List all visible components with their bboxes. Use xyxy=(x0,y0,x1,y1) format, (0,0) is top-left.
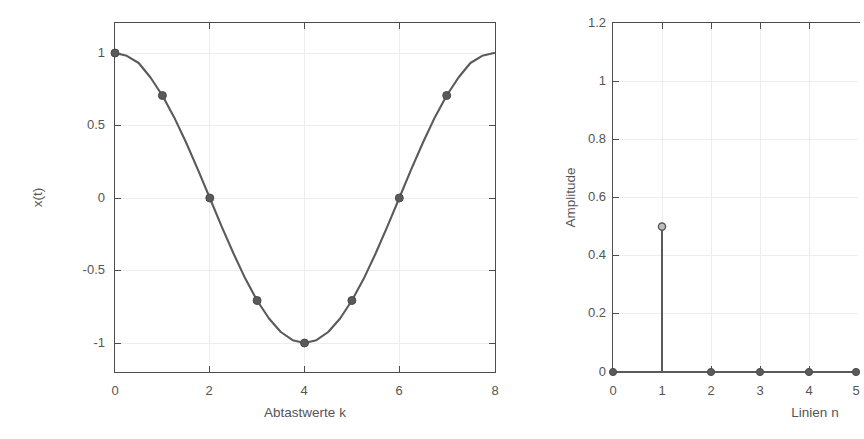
x-tick-label: 0 xyxy=(95,384,135,397)
y-tick-mark xyxy=(115,343,121,344)
y-tick-label: -0.5 xyxy=(60,263,105,276)
x-tick-mark xyxy=(662,366,663,372)
plot-frame-time-domain xyxy=(114,22,496,373)
chart-panel-time-domain: 1 0.5 0 -0.5 -1 0 2 4 6 8 Abtastwerte k … xyxy=(0,0,540,439)
y-tick-mark-right xyxy=(489,270,495,271)
y-tick-label: 0.4 xyxy=(558,248,606,261)
y-tick-mark-right xyxy=(489,125,495,126)
x-tick-label: 1 xyxy=(642,384,682,397)
y-tick-mark-right xyxy=(489,198,495,199)
x-tick-label: 2 xyxy=(189,384,229,397)
y-tick-mark xyxy=(115,125,121,126)
y-axis-title: Amplitude xyxy=(563,166,578,230)
y-tick-label: 0 xyxy=(60,191,105,204)
x-tick-label: 6 xyxy=(379,384,419,397)
x-tick-mark xyxy=(809,366,810,372)
y-tick-mark xyxy=(613,197,619,198)
y-tick-label: 0 xyxy=(558,365,606,378)
x-tick-label: 2 xyxy=(691,384,731,397)
x-tick-label: 4 xyxy=(789,384,829,397)
y-tick-label: 1.2 xyxy=(558,16,606,29)
y-tick-label: 1 xyxy=(558,74,606,87)
x-tick-mark xyxy=(399,366,400,372)
x-tick-mark xyxy=(304,366,305,372)
x-tick-label: 5 xyxy=(836,384,864,397)
x-axis-title: Linien n xyxy=(760,405,864,420)
y-tick-mark xyxy=(115,198,121,199)
chart-panel-amplitude-spectrum: 1.2 1 0.8 0.6 0.4 0.2 0 0 1 2 3 4 5 Lini… xyxy=(540,0,858,439)
x-tick-mark-top xyxy=(711,23,712,29)
x-tick-mark-top xyxy=(209,23,210,29)
x-tick-mark xyxy=(209,366,210,372)
y-tick-mark-right xyxy=(489,53,495,54)
y-tick-mark xyxy=(613,313,619,314)
x-tick-mark-top xyxy=(760,23,761,29)
y-axis-title: x(t) xyxy=(30,168,45,228)
x-tick-label: 3 xyxy=(740,384,780,397)
x-tick-mark-top xyxy=(662,23,663,29)
y-tick-mark xyxy=(613,139,619,140)
x-tick-mark-top xyxy=(304,23,305,29)
x-axis-title: Abtastwerte k xyxy=(225,405,385,420)
x-tick-mark xyxy=(760,366,761,372)
y-tick-label: -1 xyxy=(60,336,105,349)
y-tick-label: 1 xyxy=(60,46,105,59)
y-tick-mark xyxy=(115,53,121,54)
y-tick-mark xyxy=(613,81,619,82)
y-tick-mark xyxy=(115,270,121,271)
plot-frame-amplitude-spectrum xyxy=(612,22,860,373)
y-tick-label: 0.5 xyxy=(60,118,105,131)
x-tick-mark-top xyxy=(399,23,400,29)
x-tick-label: 4 xyxy=(284,384,324,397)
y-tick-mark xyxy=(613,255,619,256)
y-tick-mark-right xyxy=(489,343,495,344)
x-tick-label: 8 xyxy=(475,384,515,397)
x-tick-mark-top xyxy=(809,23,810,29)
y-tick-label: 0.8 xyxy=(558,132,606,145)
x-tick-label: 0 xyxy=(593,384,633,397)
y-tick-label: 0.2 xyxy=(558,306,606,319)
x-tick-mark xyxy=(711,366,712,372)
